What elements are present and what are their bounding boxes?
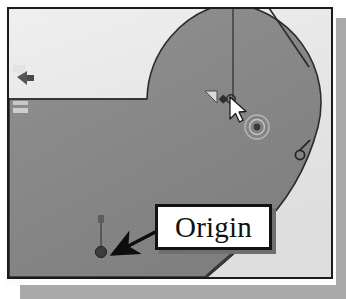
screenshot-root: ◆ (0, 0, 346, 299)
origin-callout-label: Origin (175, 213, 252, 242)
origin-callout-box[interactable]: Origin (155, 204, 272, 250)
